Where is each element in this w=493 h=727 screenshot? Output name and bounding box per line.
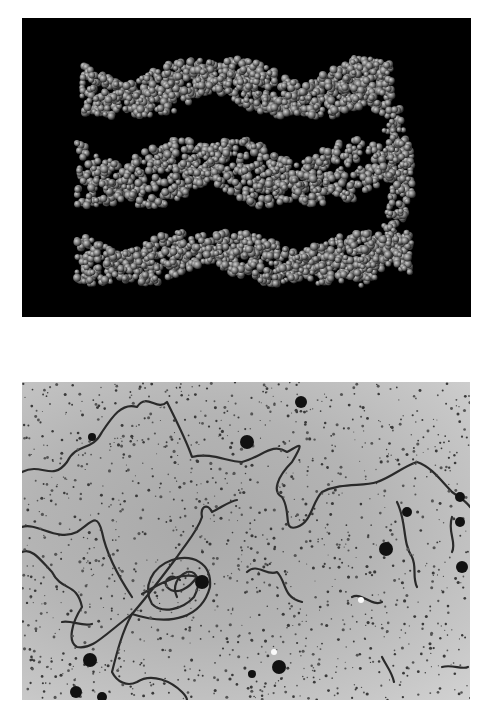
molecular-model-image: [22, 18, 471, 317]
background-particles: [22, 382, 470, 700]
electron-micrograph-image: [22, 382, 470, 700]
dna-space-filling-model: [22, 18, 471, 317]
dna-strand-micrograph: [22, 382, 470, 700]
